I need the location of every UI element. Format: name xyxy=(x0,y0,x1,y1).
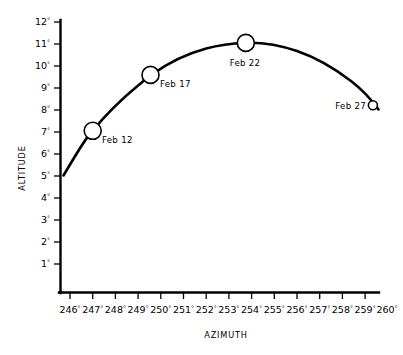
axes-group xyxy=(59,20,379,293)
x-tick-label-248: 248° xyxy=(105,304,126,316)
x-tick-label-246: 246° xyxy=(59,304,80,316)
y-tick-label-12: 12° xyxy=(35,16,50,28)
data-point-marker-feb-12[interactable] xyxy=(84,122,101,139)
data-point-marker-feb-22[interactable] xyxy=(237,34,254,51)
x-tick-label-259: 259° xyxy=(355,304,376,316)
y-tick-label-9: 9° xyxy=(41,82,50,94)
y-tick-label-2: 2° xyxy=(41,236,50,248)
data-point-marker-feb-17[interactable] xyxy=(142,66,159,83)
x-tick-label-255: 255° xyxy=(264,304,285,316)
y-tick-label-11: 11° xyxy=(35,38,50,50)
data-point-marker-feb-27[interactable] xyxy=(368,101,377,110)
data-point-label-feb-17: Feb 17 xyxy=(160,79,191,89)
y-tick-label-1: 1° xyxy=(41,258,50,270)
data-point-label-feb-22: Feb 22 xyxy=(230,58,261,68)
x-tick-label-247: 247° xyxy=(82,304,103,316)
chart-canvas: 12° 11° 10° 9° 8° 7° 6° 5° 4° 3° 2° 1° xyxy=(0,0,403,355)
y-tick-label-3: 3° xyxy=(41,214,50,226)
x-tick-label-249: 249° xyxy=(128,304,149,316)
data-point-label-feb-27: Feb 27 xyxy=(335,101,366,111)
y-axis-title: ALTITUDE xyxy=(17,145,27,190)
x-tick-label-256: 256° xyxy=(286,304,307,316)
y-tick-label-6: 6° xyxy=(41,148,50,160)
y-tick-label-5: 5° xyxy=(41,170,50,182)
x-tick-label-260: 260° xyxy=(376,304,397,316)
y-tick-label-7: 7° xyxy=(41,126,50,138)
x-tick-label-254: 254° xyxy=(241,304,262,316)
y-tick-marks xyxy=(54,22,60,264)
x-axis-title: AZIMUTH xyxy=(204,330,247,340)
x-tick-label-252: 252° xyxy=(196,304,217,316)
altitude-azimuth-chart: 12° 11° 10° 9° 8° 7° 6° 5° 4° 3° 2° 1° xyxy=(0,0,403,355)
x-tick-label-257: 257° xyxy=(309,304,330,316)
x-tick-marks xyxy=(70,293,365,299)
x-tick-label-250: 250° xyxy=(150,304,171,316)
x-tick-label-253: 253° xyxy=(218,304,239,316)
x-tick-label-258: 258° xyxy=(332,304,353,316)
data-point-markers xyxy=(84,34,377,139)
y-tick-label-8: 8° xyxy=(41,104,50,116)
y-tick-labels: 12° 11° 10° 9° 8° 7° 6° 5° 4° 3° 2° 1° xyxy=(35,16,50,270)
data-point-label-feb-12: Feb 12 xyxy=(102,135,133,145)
y-tick-label-4: 4° xyxy=(41,192,50,204)
x-tick-labels: 246° 247° 248° 249° 250° 251° 252° 253° … xyxy=(59,304,397,316)
altitude-track-curve xyxy=(64,43,379,176)
x-tick-label-251: 251° xyxy=(173,304,194,316)
data-point-labels: Feb 12 Feb 17 Feb 22 Feb 27 xyxy=(102,58,366,145)
y-tick-label-10: 10° xyxy=(35,60,50,72)
